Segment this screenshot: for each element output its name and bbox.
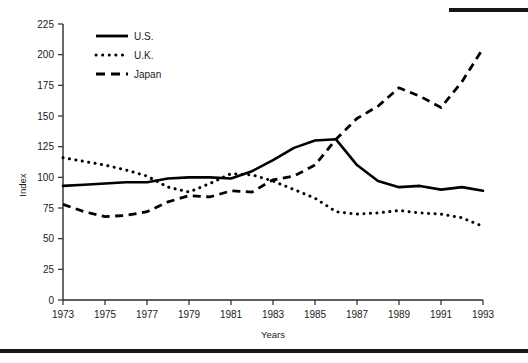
legend-label-japan: Japan (134, 69, 161, 80)
y-tick-label: 75 (43, 203, 55, 214)
x-tick-label: 1989 (388, 309, 411, 320)
y-tick-label: 25 (43, 264, 55, 275)
line-chart-plot: 0255075100125150175200225 19731975197719… (0, 0, 528, 363)
y-tick-label: 175 (37, 80, 54, 91)
y-axis: 0255075100125150175200225 (37, 19, 63, 306)
x-tick-label: 1993 (472, 309, 495, 320)
top-right-divider (449, 8, 528, 12)
chart-figure: 0255075100125150175200225 19731975197719… (0, 0, 528, 363)
x-tick-label: 1979 (178, 309, 201, 320)
x-axis: 1973197519771979198119831985198719891991… (52, 300, 495, 320)
legend-label-us: U.S. (134, 31, 153, 42)
y-tick-label: 100 (37, 172, 54, 183)
bottom-divider (0, 349, 528, 353)
chart-legend: U.S.U.K.Japan (96, 31, 161, 80)
x-tick-label: 1975 (94, 309, 117, 320)
series-line-uk (63, 158, 483, 227)
y-tick-label: 225 (37, 19, 54, 30)
y-tick-label: 125 (37, 141, 54, 152)
series-line-us (63, 139, 483, 191)
y-tick-label: 200 (37, 49, 54, 60)
y-axis-title: Index (17, 173, 28, 196)
x-tick-label: 1983 (262, 309, 285, 320)
y-tick-label: 50 (43, 233, 55, 244)
y-tick-label: 0 (48, 295, 54, 306)
x-tick-label: 1985 (304, 309, 327, 320)
x-axis-title: Years (261, 329, 285, 340)
y-tick-label: 150 (37, 111, 54, 122)
x-tick-label: 1987 (346, 309, 369, 320)
x-tick-label: 1977 (136, 309, 159, 320)
x-tick-label: 1981 (220, 309, 243, 320)
legend-label-uk: U.K. (134, 50, 153, 61)
x-tick-label: 1973 (52, 309, 75, 320)
x-tick-label: 1991 (430, 309, 453, 320)
